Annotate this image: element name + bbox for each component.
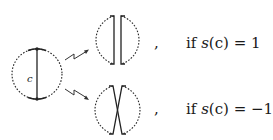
- case-2-condition: if s(c) = −1.: [186, 100, 273, 118]
- diagram-canvas: [0, 0, 273, 140]
- result-circle-parallel: [96, 16, 139, 64]
- case-1-if: if: [186, 34, 201, 52]
- chord-endpoint-bottom: [35, 97, 38, 100]
- chord-endpoint-top: [35, 47, 38, 50]
- case-1-func: s: [201, 34, 209, 52]
- case-1-value: 1: [251, 34, 261, 52]
- chord-label: c: [27, 73, 33, 84]
- case-2-value: −1.: [251, 100, 273, 118]
- source-circle: [12, 47, 62, 100]
- zigzag-arrow-up: [65, 50, 89, 61]
- case-2-separator: ,: [154, 100, 159, 118]
- case-2-func: s: [201, 100, 209, 118]
- case-1-separator: ,: [154, 34, 159, 52]
- result-circle-crossed: [95, 86, 140, 134]
- case-2-if: if: [186, 100, 201, 118]
- case-2-relation: =: [229, 100, 251, 118]
- case-1-condition: if s(c) = 1: [186, 34, 261, 52]
- case-1-relation: =: [229, 34, 251, 52]
- zigzag-arrow-down: [65, 89, 89, 100]
- case-1-arg: (c): [209, 34, 229, 52]
- case-2-arg: (c): [209, 100, 229, 118]
